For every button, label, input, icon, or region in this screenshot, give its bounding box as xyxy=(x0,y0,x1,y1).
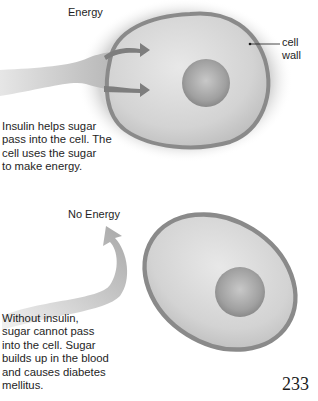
top-caption-line: cell uses the sugar xyxy=(2,147,112,160)
page-number: 233 xyxy=(282,374,309,395)
cell-wall-label-line2: wall xyxy=(282,49,301,62)
top-caption-line: Insulin helps sugar xyxy=(2,120,112,133)
bottom-caption-line: into the cell. Sugar xyxy=(2,339,109,352)
bottom-caption-line: sugar cannot pass xyxy=(2,325,109,338)
energy-title: Energy xyxy=(68,6,103,19)
top-caption-line: pass into the cell. The xyxy=(2,133,112,146)
bottom-caption-line: builds up in the blood xyxy=(2,352,109,365)
bottom-caption-line: and causes diabetes xyxy=(2,366,109,379)
bottom-caption-line: mellitus. xyxy=(2,379,109,392)
cell-wall-label: cell wall xyxy=(282,36,301,62)
page: Energy cell wall Insulin helps sugar pas… xyxy=(0,0,318,401)
bottom-caption: Without insulin, sugar cannot pass into … xyxy=(2,312,109,392)
top-caption-line: to make energy. xyxy=(2,160,112,173)
no-energy-title: No Energy xyxy=(68,208,120,221)
cell-wall-label-line1: cell xyxy=(282,36,301,49)
bottom-caption-line: Without insulin, xyxy=(2,312,109,325)
top-caption: Insulin helps sugar pass into the cell. … xyxy=(2,120,112,174)
